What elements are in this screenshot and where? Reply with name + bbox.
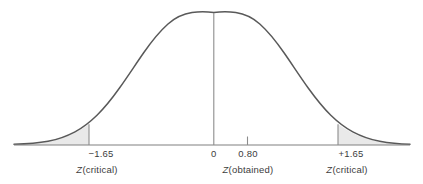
- z-obtained-label: Z(obtained): [223, 164, 274, 175]
- z-critical-upper-label: Z(critical): [326, 164, 367, 175]
- z-critical-lower-label-text: (critical): [82, 164, 117, 175]
- z-critical-lower-label: Z(critical): [76, 164, 117, 175]
- z-critical-upper-value: +1.65: [338, 148, 363, 159]
- lower-rejection-region-shading: [14, 124, 89, 145]
- z-obtained-value: 0.80: [238, 148, 257, 159]
- normal-curve: [14, 12, 410, 144]
- z-critical-upper-label-text: (critical): [332, 164, 367, 175]
- z-critical-lower-value: −1.65: [88, 148, 113, 159]
- z-obtained-label-text: (obtained): [229, 164, 274, 175]
- normal-distribution-figure: −1.65 0 0.80 +1.65 Z(critical) Z(obtaine…: [0, 0, 423, 184]
- z-mean-value: 0: [211, 148, 216, 159]
- upper-rejection-region-shading: [338, 124, 410, 145]
